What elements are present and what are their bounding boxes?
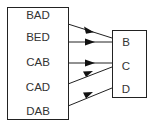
arrowhead-icon <box>85 39 95 46</box>
domain-item-bed: BED <box>26 31 50 43</box>
domain-item-bad: BAD <box>26 9 50 21</box>
arrow-cad-c <box>68 67 112 84</box>
arrowhead-icon <box>84 27 94 34</box>
codomain-item-b: B <box>122 36 130 48</box>
mapping-diagram: BAD BED CAB CAD DAB B C D <box>0 0 152 126</box>
arrowhead-icon <box>85 60 95 67</box>
codomain-item-d: D <box>122 83 130 95</box>
arrow-dab-d <box>68 88 112 106</box>
domain-item-cab: CAB <box>26 56 50 68</box>
codomain-item-c: C <box>122 60 130 72</box>
domain-item-cad: CAD <box>26 81 50 93</box>
domain-item-dab: DAB <box>26 105 50 117</box>
